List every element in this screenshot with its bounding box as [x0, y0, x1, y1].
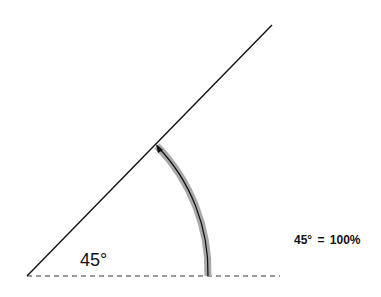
angle-label: 45°	[80, 250, 107, 271]
arc-band	[157, 146, 208, 276]
equation-label: 45° = 100%	[294, 233, 361, 247]
angle-diagram	[0, 0, 381, 297]
angle-ray	[27, 25, 272, 276]
